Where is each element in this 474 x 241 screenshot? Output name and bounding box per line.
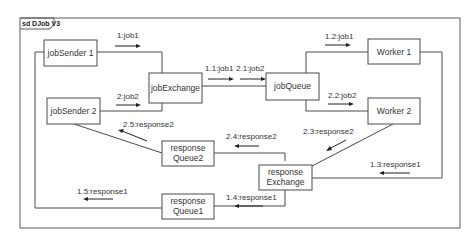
node-worker-2[interactable]: Worker 2 bbox=[368, 98, 420, 124]
link-queue-worker1 bbox=[306, 52, 368, 73]
node-response-queue-2[interactable]: response Queue2 bbox=[162, 141, 214, 166]
message-1-5-response1: 1.5:response1 bbox=[77, 187, 128, 196]
svg-text:Queue1: Queue1 bbox=[173, 206, 204, 216]
svg-text:response: response bbox=[171, 196, 206, 206]
svg-text:Exchange: Exchange bbox=[267, 177, 305, 187]
message-2-5-response2: 2.5:response2 bbox=[123, 120, 174, 129]
arrow-right-icon bbox=[116, 103, 141, 107]
arrow-left-icon bbox=[83, 197, 113, 201]
link-sender2-exchange bbox=[100, 103, 162, 111]
sequence-diagram: sd DJob V3 jobSender 1 jobSender 2 jobEx… bbox=[0, 0, 474, 241]
message-1-1-job1: 1.1:job1 bbox=[205, 64, 234, 73]
message-2-2-job2: 2.2:job2 bbox=[328, 91, 357, 100]
svg-text:Worker 1: Worker 1 bbox=[377, 47, 412, 57]
node-jobsender-2[interactable]: jobSender 2 bbox=[47, 98, 100, 124]
link-sender1-exchange bbox=[97, 52, 162, 73]
arrow-left-icon bbox=[234, 204, 263, 208]
node-jobexchange[interactable]: jobExchange bbox=[149, 73, 202, 103]
node-jobsender-1[interactable]: jobSender 1 bbox=[44, 40, 97, 66]
svg-text:jobSender 1: jobSender 1 bbox=[47, 48, 94, 58]
message-1-2-job1: 1.2:job1 bbox=[325, 32, 354, 41]
node-response-exchange[interactable]: response Exchange bbox=[259, 165, 312, 190]
arrow-right-icon bbox=[240, 77, 266, 81]
message-2-1-job2: 2.1:job2 bbox=[236, 64, 265, 73]
svg-text:jobQueue: jobQueue bbox=[273, 81, 311, 91]
message-2-3-response2: 2.3:response2 bbox=[303, 127, 354, 136]
link-queue1-sender1 bbox=[35, 52, 162, 208]
node-jobqueue[interactable]: jobQueue bbox=[266, 73, 319, 100]
arrow-left-icon bbox=[379, 171, 410, 175]
node-response-queue-1[interactable]: response Queue1 bbox=[162, 194, 214, 219]
message-1-4-response1: 1.4:response1 bbox=[226, 193, 277, 202]
message-1-job1: 1:job1 bbox=[117, 31, 139, 40]
svg-text:response: response bbox=[268, 167, 303, 177]
arrow-diagonal-icon bbox=[326, 140, 346, 151]
arrow-left-icon bbox=[234, 144, 259, 148]
node-worker-1[interactable]: Worker 1 bbox=[368, 39, 420, 64]
message-2-job2: 2:job2 bbox=[117, 92, 139, 101]
svg-text:jobSender 2: jobSender 2 bbox=[50, 106, 97, 116]
arrow-right-icon bbox=[115, 44, 141, 48]
message-2-4-response2: 2.4:response2 bbox=[226, 132, 277, 141]
svg-text:Queue2: Queue2 bbox=[173, 153, 204, 163]
arrow-right-icon bbox=[328, 102, 354, 106]
svg-text:response: response bbox=[171, 143, 206, 153]
frame-title: sd DJob V3 bbox=[22, 20, 60, 27]
arrow-diagonal-icon bbox=[118, 129, 147, 141]
message-1-3-response1: 1.3:response1 bbox=[370, 160, 421, 169]
svg-text:jobExchange: jobExchange bbox=[150, 83, 200, 93]
arrow-right-icon bbox=[208, 77, 234, 81]
link-queue-worker2 bbox=[306, 100, 368, 111]
svg-text:Worker 2: Worker 2 bbox=[377, 106, 412, 116]
arrow-right-icon bbox=[325, 43, 351, 47]
link-respexchange-queue2 bbox=[214, 153, 285, 161]
